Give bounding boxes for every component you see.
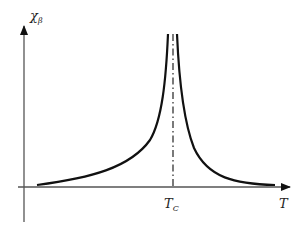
x-axis-label: T [279, 196, 289, 211]
curve-right-branch [177, 34, 275, 185]
critical-temperature-label: TC [164, 196, 179, 213]
y-axis-label: χβ [29, 8, 43, 25]
curve-left-branch [37, 34, 168, 185]
susceptibility-diagram: χβ TC T [0, 0, 304, 232]
